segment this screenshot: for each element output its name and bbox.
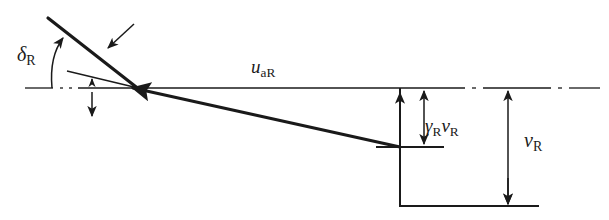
label-u-ar: uaR <box>251 57 275 76</box>
gamma-subscript: R <box>433 124 442 139</box>
resultant-flow-vector <box>133 88 400 147</box>
diagram-svg <box>0 0 609 220</box>
v-subscript: R <box>533 139 542 154</box>
rudder-chord-line <box>48 18 140 90</box>
v-symbol: v <box>524 129 533 151</box>
u-subscript: aR <box>261 65 276 80</box>
delta-symbol: δ <box>17 43 26 65</box>
label-gamma-r-v-r: γRvR <box>425 116 459 135</box>
u-symbol: u <box>251 56 261 77</box>
delta-subscript: R <box>26 53 35 68</box>
v-symbol-inline: v <box>441 115 449 136</box>
label-v-r: vR <box>524 130 542 150</box>
delta-r-angle-arc <box>51 38 63 88</box>
gamma-symbol: γ <box>425 115 433 136</box>
rudder-chord-pointer-arrow <box>108 24 134 48</box>
diagram-canvas: δR uaR γRvR vR <box>0 0 609 220</box>
v-subscript-inline: R <box>450 124 459 139</box>
label-delta-r: δR <box>17 44 36 64</box>
